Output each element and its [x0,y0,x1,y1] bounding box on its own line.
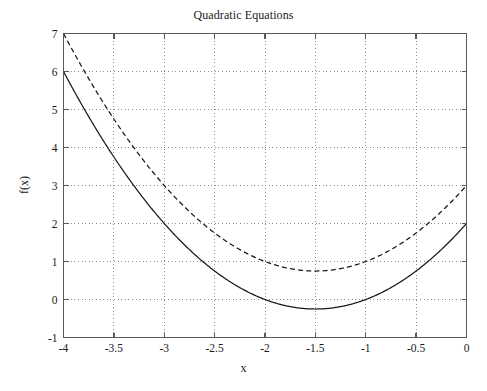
x-tick-label: -3 [159,342,169,354]
x-tick-label: -0.5 [407,342,425,354]
x-tick-label: 0 [464,342,470,354]
y-tick-label: 7 [52,28,58,40]
plot-area: -4-3.5-3-2.5-2-1.5-1-0.50-101234567 [0,0,487,391]
grid-lines [64,34,467,338]
y-tick-label: 0 [52,294,58,306]
y-tick-label: 3 [52,180,58,192]
x-tick-label: -3.5 [105,342,123,354]
x-tick-label: -1 [361,342,371,354]
y-tick-label: 5 [52,104,58,116]
y-tick-label: 2 [52,218,58,230]
x-tick-label: -4 [59,342,69,354]
chart-figure: Quadratic Equations f(x) x -4-3.5-3-2.5-… [0,0,487,391]
x-tick-label: -2.5 [206,342,224,354]
tick-labels: -4-3.5-3-2.5-2-1.5-1-0.50-101234567 [48,28,470,354]
y-tick-label: -1 [48,332,58,344]
data-curve-1 [64,72,467,310]
y-tick-label: 1 [52,256,58,268]
y-tick-label: 6 [52,66,58,78]
x-tick-label: -1.5 [306,342,324,354]
y-tick-label: 4 [52,142,58,154]
x-tick-label: -2 [260,342,270,354]
